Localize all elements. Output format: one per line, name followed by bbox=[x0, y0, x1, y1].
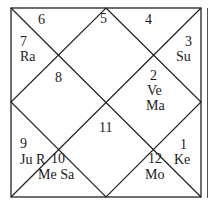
house-sign: 7 bbox=[20, 34, 27, 49]
house-sign: 3 bbox=[185, 34, 192, 49]
house-planets: Ve bbox=[147, 83, 162, 98]
house-sign: 11 bbox=[99, 120, 112, 135]
house-sign: 1 bbox=[180, 137, 187, 152]
house-sign: 12 bbox=[148, 151, 162, 166]
house-planets: Mo bbox=[145, 167, 164, 182]
house-planets: Ju R bbox=[20, 152, 45, 167]
house-sign: 5 bbox=[100, 11, 107, 26]
house-planets: Ma bbox=[146, 98, 165, 113]
house-sign: 4 bbox=[145, 12, 152, 27]
house-sign: 8 bbox=[55, 70, 62, 85]
house-sign: 9 bbox=[20, 136, 27, 151]
house-planets: Ra bbox=[20, 49, 36, 64]
house-sign: 10 bbox=[51, 151, 65, 166]
house-planets: Ke bbox=[174, 152, 190, 167]
house-sign: 6 bbox=[38, 12, 45, 27]
house-planets: Su bbox=[176, 49, 191, 64]
birth-chart: 5 6 4 7 Ra 3 Su 8 2 Ve Ma 11 9 Ju R 10 M… bbox=[0, 0, 210, 208]
frame-edge bbox=[207, 8, 208, 198]
house-sign: 2 bbox=[150, 68, 157, 83]
house-planets: Me Sa bbox=[38, 167, 74, 182]
chart-grid bbox=[0, 0, 210, 208]
